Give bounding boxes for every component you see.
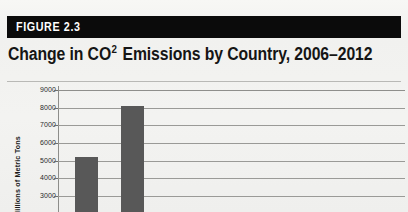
gridline-8000 <box>58 108 405 109</box>
tick-mark-3000 <box>54 196 58 197</box>
gridline-7000 <box>58 125 405 126</box>
bar-chart: Millions of Metric Tons 9000800070006000… <box>0 86 408 212</box>
tick-mark-4000 <box>54 178 58 179</box>
tick-mark-8000 <box>54 108 58 109</box>
y-tick-label-9000: 9000 <box>12 86 56 93</box>
figure-title-prefix: Change in CO <box>8 44 111 64</box>
gridline-4000 <box>58 178 405 179</box>
figure-number-label: FIGURE 2.3 <box>16 20 81 34</box>
y-tick-label-7000: 7000 <box>12 121 56 128</box>
title-divider <box>7 81 401 82</box>
figure-title-superscript: 2 <box>112 43 117 55</box>
y-axis-tick-labels: 9000800070006000500040003000 <box>10 86 56 212</box>
figure-banner: FIGURE 2.3 <box>7 16 401 38</box>
tick-mark-5000 <box>54 161 58 162</box>
tick-mark-6000 <box>54 143 58 144</box>
figure-title: Change in CO2 Emissions by Country, 2006… <box>8 46 372 64</box>
tick-mark-9000 <box>54 90 58 91</box>
gridline-6000 <box>58 143 405 144</box>
y-tick-label-3000: 3000 <box>12 192 56 199</box>
plot-area <box>58 86 405 212</box>
bar <box>75 157 98 212</box>
figure-title-suffix: Emissions by Country, 2006–2012 <box>118 44 372 64</box>
gridline-5000 <box>58 161 405 162</box>
tick-mark-7000 <box>54 125 58 126</box>
y-tick-label-6000: 6000 <box>12 139 56 146</box>
y-tick-label-5000: 5000 <box>12 157 56 164</box>
y-tick-label-8000: 8000 <box>12 104 56 111</box>
y-tick-label-4000: 4000 <box>12 174 56 181</box>
gridline-3000 <box>58 196 405 197</box>
y-axis-line <box>58 86 59 212</box>
bar <box>121 106 144 212</box>
gridline-9000 <box>58 90 405 91</box>
